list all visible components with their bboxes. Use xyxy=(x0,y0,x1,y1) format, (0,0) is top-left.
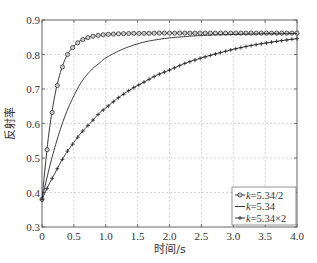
x-axis-label: 时间/s xyxy=(154,243,186,256)
legend-label: k=5.34×2 xyxy=(246,213,286,224)
circle-marker xyxy=(254,31,258,35)
circle-marker xyxy=(101,33,105,37)
series-line xyxy=(42,39,297,200)
circle-marker xyxy=(198,31,202,35)
legend-label: k=5.34/2 xyxy=(246,190,283,201)
circle-marker xyxy=(238,193,242,197)
circle-marker xyxy=(122,32,126,36)
circle-marker xyxy=(173,31,177,35)
circle-marker xyxy=(132,31,136,35)
circle-marker xyxy=(147,31,151,35)
circle-marker xyxy=(106,32,110,36)
x-tick-label: 1.5 xyxy=(131,230,145,242)
circle-marker xyxy=(116,32,120,36)
x-tick-label: 2.5 xyxy=(195,230,209,242)
y-tick-label: 0.7 xyxy=(26,83,40,95)
x-tick-label: 2.0 xyxy=(163,230,177,242)
y-axis-label: 反射率 xyxy=(3,107,17,140)
circle-marker xyxy=(193,31,197,35)
y-tick-label: 0.4 xyxy=(26,187,40,199)
y-tick-label: 0.8 xyxy=(26,49,40,61)
legend: k=5.34/2k=5.34k=5.34×2 xyxy=(232,187,296,225)
circle-marker xyxy=(280,31,284,35)
circle-marker xyxy=(91,34,95,38)
circle-marker xyxy=(65,52,69,56)
circle-marker xyxy=(111,32,115,36)
circle-marker xyxy=(86,35,90,39)
circle-marker xyxy=(127,31,131,35)
x-tick-label: 4.0 xyxy=(290,230,304,242)
circle-marker xyxy=(45,148,49,152)
circle-marker xyxy=(203,31,207,35)
circle-marker xyxy=(142,31,146,35)
circle-marker xyxy=(137,31,141,35)
x-tick-label: 0.5 xyxy=(67,230,81,242)
circle-marker xyxy=(55,83,59,87)
circle-marker xyxy=(259,31,263,35)
circle-marker xyxy=(275,31,279,35)
circle-marker xyxy=(76,41,80,45)
y-tick-label: 0.9 xyxy=(26,14,40,26)
circle-marker xyxy=(96,33,100,37)
y-tick-label: 0.5 xyxy=(26,152,40,164)
circle-marker xyxy=(264,31,268,35)
circle-marker xyxy=(81,37,85,41)
circle-marker xyxy=(183,31,187,35)
circle-marker xyxy=(50,110,54,114)
x-tick-label: 0 xyxy=(39,230,45,242)
circle-marker xyxy=(188,31,192,35)
reflectance-chart: 00.51.01.52.02.53.03.54.00.30.40.50.60.7… xyxy=(0,0,317,263)
circle-marker xyxy=(167,31,171,35)
circle-marker xyxy=(152,31,156,35)
circle-marker xyxy=(208,31,212,35)
x-tick-label: 1.0 xyxy=(99,230,113,242)
circle-marker xyxy=(60,65,64,69)
circle-marker xyxy=(285,31,289,35)
circle-marker xyxy=(178,31,182,35)
legend-label: k=5.34 xyxy=(246,201,276,212)
y-tick-label: 0.3 xyxy=(26,221,40,233)
circle-marker xyxy=(269,31,273,35)
circle-marker xyxy=(162,31,166,35)
x-tick-label: 3.5 xyxy=(258,230,272,242)
x-tick-label: 3.0 xyxy=(226,230,240,242)
circle-marker xyxy=(71,46,75,50)
circle-marker xyxy=(157,31,161,35)
y-tick-label: 0.6 xyxy=(26,118,40,130)
